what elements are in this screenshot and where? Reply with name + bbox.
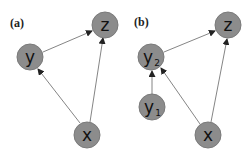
svg-text:1: 1 [155,108,161,118]
edge-y-z [43,31,92,52]
edge-x-y2 [161,68,200,124]
svg-text:y: y [25,47,35,67]
node-y1: y 1 [139,94,165,120]
node-z-b: z [215,12,241,38]
panel-b: (b) y 2 z y 1 x [134,12,241,148]
node-x: x [74,122,100,148]
panel-b-label: (b) [134,15,149,29]
svg-text:x: x [82,125,92,145]
edge-x-y [38,69,80,123]
node-z: z [92,12,118,38]
edge-x-z [211,39,227,122]
svg-text:y: y [144,97,154,117]
panel-a: (a) y z x [10,12,118,148]
svg-text:z: z [101,15,110,35]
panel-a-label: (a) [10,16,24,30]
causal-graph-figure: (a) y z x (b) y 2 z [0,0,252,157]
edge-y2-z [164,31,215,52]
svg-text:x: x [203,125,213,145]
node-x-b: x [195,122,221,148]
svg-text:y: y [143,47,153,67]
edge-x-z [90,38,103,122]
svg-text:z: z [224,15,233,35]
svg-text:2: 2 [154,58,160,68]
node-y2: y 2 [138,44,164,70]
node-y: y [17,44,43,70]
